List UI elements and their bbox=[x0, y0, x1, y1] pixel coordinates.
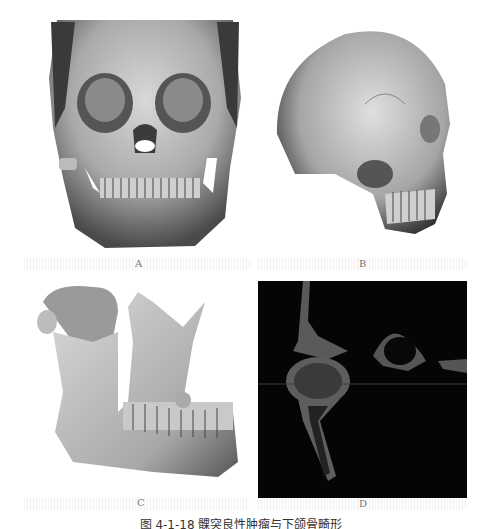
panel-a-image bbox=[45, 18, 245, 250]
panel-label-b: B bbox=[359, 258, 366, 269]
panel-b-image bbox=[275, 24, 465, 250]
figure-caption: 图 4-1-18 髁突良性肿瘤与下颌骨畸形 bbox=[0, 516, 482, 529]
panel-c-image bbox=[33, 282, 241, 492]
panel-label-c: C bbox=[137, 497, 145, 508]
panel-d-image bbox=[258, 281, 467, 498]
panel-label-a: A bbox=[135, 258, 142, 269]
panel-label-d: D bbox=[359, 498, 367, 509]
